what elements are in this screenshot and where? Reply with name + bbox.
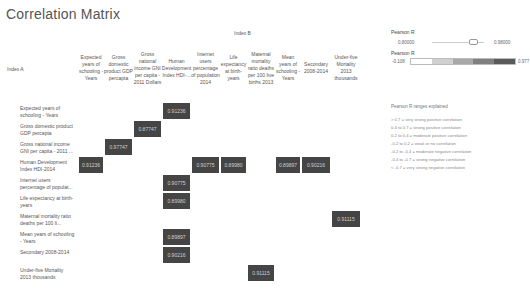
column-header[interactable]: Gross national income GNI per capita - 2… [133, 38, 162, 98]
explanation-line: -0.4 to -0.7 = strong negative correlati… [391, 157, 465, 162]
color-swatch [453, 59, 474, 64]
row-label[interactable]: Life expectancy at birth- years [20, 195, 75, 209]
color-legend-max: 0.977 [518, 59, 529, 64]
column-header[interactable]: Expected years of schooling - Years [78, 38, 104, 98]
color-legend-min: -0.108 [392, 59, 405, 64]
explanation-line: -0.2 to 0.2 = weak or no correlation [391, 141, 456, 146]
matrix-cell[interactable]: 0.91115 [247, 264, 275, 282]
page-title: Correlation Matrix [6, 6, 120, 22]
matrix-cell[interactable]: 0.91115 [331, 210, 361, 228]
slider-max-value[interactable]: 0.98000 [494, 40, 510, 45]
range-slider-handle[interactable] [469, 39, 478, 45]
explanation-line: 0.4 to 0.7 = strong positive correlation [391, 125, 461, 130]
column-header[interactable]: Life expectancy at birth- years [220, 38, 247, 98]
color-legend-title: Pearson R [391, 50, 415, 56]
matrix-cell[interactable]: 0.91236 [78, 156, 104, 174]
color-swatch [494, 59, 515, 64]
column-axis-label: Index B [234, 30, 251, 36]
matrix-cell[interactable]: 0.90775 [162, 174, 191, 192]
column-header[interactable]: Secondary 2008-2014 [301, 38, 331, 98]
row-label[interactable]: Gross national income GNI per capita - 2… [20, 141, 75, 155]
column-header[interactable]: Maternal mortality ratio deaths per 100 … [247, 38, 275, 98]
explanation-line: -0.2 to -0.4 = moderate negative correla… [391, 149, 471, 154]
row-label[interactable]: Maternal mortality ratio deaths per 100 … [20, 213, 75, 227]
color-swatch [432, 59, 453, 64]
explanation-line: < -0.7 = very strong negative correlatio… [391, 165, 465, 170]
matrix-cell[interactable]: 0.90216 [162, 246, 191, 264]
explanation-line: > 0.7 = very strong positive correlation [391, 117, 462, 122]
color-swatch [411, 59, 432, 64]
color-swatch [473, 59, 494, 64]
color-legend-bar [410, 58, 516, 65]
column-header[interactable]: Internet users percentage of population … [191, 38, 220, 98]
slider-min-value[interactable]: 0.80000 [398, 40, 414, 45]
row-label[interactable]: Gross domestic product GDP percapta [20, 123, 75, 137]
matrix-cell[interactable]: 0.90775 [191, 156, 220, 174]
matrix-cell[interactable]: 0.89980 [220, 156, 247, 174]
matrix-cell[interactable]: 0.97747 [104, 138, 133, 156]
row-label[interactable]: Internet users percentage of populat... [20, 177, 75, 191]
matrix-cell[interactable]: 0.87747 [133, 120, 162, 138]
explanation-title: Pearson R ranges explained [391, 104, 448, 109]
column-header[interactable]: Mean years of schooling - Years [275, 38, 301, 98]
row-label[interactable]: Human Development Index HDI-2014 [20, 159, 75, 173]
row-axis-label: Index A [7, 66, 24, 72]
matrix-cell[interactable]: 0.89980 [162, 192, 191, 210]
explanation-line: 0.2 to 0.4 = moderate positive correlati… [391, 133, 467, 138]
column-header[interactable]: Gross domestic product GDP percapta [104, 38, 133, 98]
row-label[interactable]: Expected years of schooling - Years [20, 105, 75, 119]
matrix-cell[interactable]: 0.89897 [162, 228, 191, 246]
filter-title: Pearson R [391, 29, 415, 35]
matrix-cell[interactable]: 0.91236 [162, 102, 191, 120]
row-label[interactable]: Secondary 2008-2014 [20, 249, 75, 256]
matrix-cell[interactable]: 0.90216 [301, 156, 331, 174]
row-label[interactable]: Under-five Mortality 2013 thousands [20, 267, 75, 281]
row-label[interactable]: Mean years of schooling - Years [20, 231, 75, 245]
column-header[interactable]: Human Development Index HDI-... [162, 38, 191, 98]
matrix-cell[interactable]: 0.89897 [275, 156, 301, 174]
column-header[interactable]: Under-five Mortality 2013 thousands [331, 38, 361, 98]
